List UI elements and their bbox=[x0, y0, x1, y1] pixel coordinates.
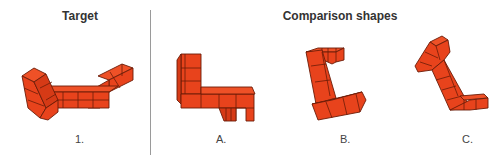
target-shape bbox=[22, 64, 133, 120]
shape-c bbox=[415, 36, 488, 110]
target-label: 1. bbox=[75, 133, 84, 145]
option-b-label: B. bbox=[340, 133, 350, 145]
option-c-label: C. bbox=[462, 133, 473, 145]
option-a-label: A. bbox=[216, 133, 226, 145]
shape-a bbox=[177, 54, 255, 121]
shape-b bbox=[306, 48, 366, 120]
